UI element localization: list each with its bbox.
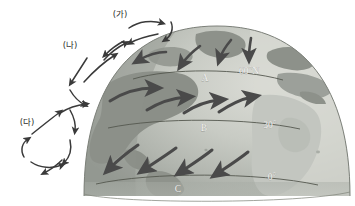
cell-na-arrow-top xyxy=(71,58,87,83)
cell-na-arrow-descend xyxy=(70,90,85,105)
cell-label-ga: (가) xyxy=(113,9,128,19)
cell-ga-arrow-surface xyxy=(105,41,124,55)
land-island-2 xyxy=(204,149,207,151)
land-asia-limb xyxy=(323,60,350,88)
marker-b: B xyxy=(201,123,207,133)
cell-da-arrow-top xyxy=(32,112,60,134)
cell-na-arrow-surface xyxy=(60,104,86,113)
cell-na-arrow-rise xyxy=(84,55,115,82)
cell-ga-arrow-top xyxy=(129,21,162,28)
cell-label-da: (다) xyxy=(20,117,35,127)
marker-a: A xyxy=(202,73,209,83)
label-0: 0° xyxy=(268,172,277,182)
cell-da-arrow-descend xyxy=(22,139,28,157)
marker-c: C xyxy=(175,184,181,194)
cell-da-arrow-rise xyxy=(70,110,75,131)
globe-base-shadow xyxy=(84,182,350,206)
label-60n: 60°N xyxy=(239,66,259,76)
cell-label-na: (나) xyxy=(63,40,78,50)
atmospheric-circulation-figure: A B C 60°N 30° 0° xyxy=(0,0,355,206)
figure-canvas: A B C 60°N 30° 0° xyxy=(0,0,355,206)
cell-da-arrow-return xyxy=(64,140,71,163)
label-30n: 30° xyxy=(263,120,277,130)
land-island-1 xyxy=(316,151,320,154)
